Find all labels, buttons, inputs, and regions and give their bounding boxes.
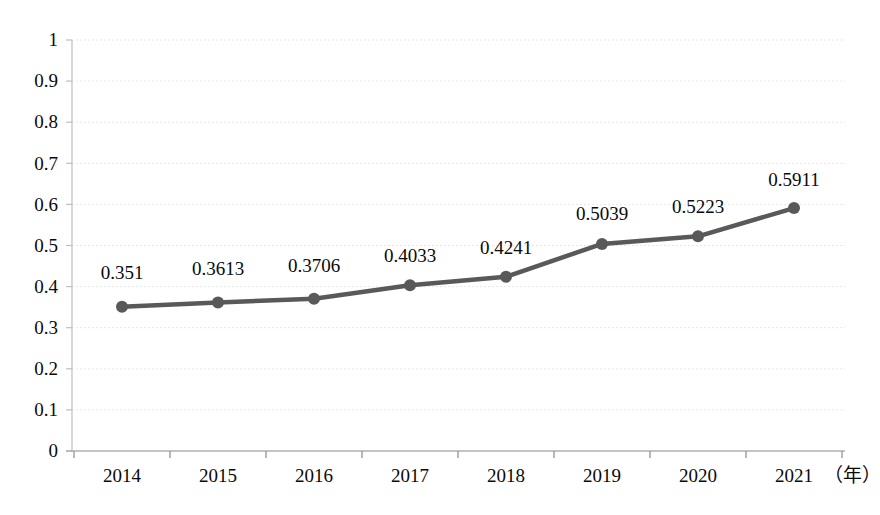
data-label-2018: 0.4241: [458, 238, 554, 257]
data-point-2021: [788, 202, 800, 214]
y-axis-label-0.8: 0.8: [6, 112, 58, 131]
x-axis-label-2015: 2015: [170, 466, 266, 485]
x-axis-label-2014: 2014: [74, 466, 170, 485]
y-axis-label-0.2: 0.2: [6, 359, 58, 378]
x-axis-label-2017: 2017: [362, 466, 458, 485]
x-axis-label-2016: 2016: [266, 466, 362, 485]
y-axis-label-0: 0: [6, 441, 58, 460]
y-axis-label-0.1: 0.1: [6, 400, 58, 419]
x-axis-label-2020: 2020: [650, 466, 746, 485]
data-point-2019: [596, 238, 608, 250]
y-axis-label-0.7: 0.7: [6, 154, 58, 173]
x-axis-unit-label: （年）: [824, 466, 880, 485]
data-label-2021: 0.5911: [746, 170, 842, 189]
data-point-2018: [500, 271, 512, 283]
y-axis-label-0.5: 0.5: [6, 236, 58, 255]
y-axis-label-0.3: 0.3: [6, 318, 58, 337]
data-label-2017: 0.4033: [362, 246, 458, 265]
x-axis-label-2018: 2018: [458, 466, 554, 485]
line-chart: 1 0.9 0.8 0.7 0.6 0.5 0.4 0.3 0.2 0.1 0 …: [0, 0, 880, 515]
data-label-2016: 0.3706: [266, 256, 362, 275]
data-point-2014: [116, 301, 128, 313]
y-axis-label-0.6: 0.6: [6, 195, 58, 214]
data-point-2015: [212, 297, 224, 309]
data-point-2017: [404, 279, 416, 291]
data-label-2014: 0.351: [74, 263, 170, 282]
y-axis-label-0.4: 0.4: [6, 277, 58, 296]
data-point-2016: [308, 293, 320, 305]
y-axis-label-1: 1: [6, 30, 58, 49]
data-label-2015: 0.3613: [170, 259, 266, 278]
data-point-2020: [692, 230, 704, 242]
x-axis-label-2019: 2019: [554, 466, 650, 485]
y-axis-label-0.9: 0.9: [6, 71, 58, 90]
data-label-2020: 0.5223: [650, 197, 746, 216]
data-label-2019: 0.5039: [554, 204, 650, 223]
